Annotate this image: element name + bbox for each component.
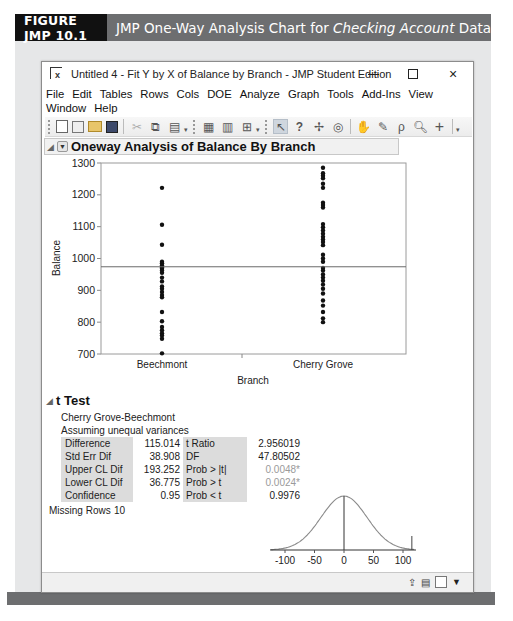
data-point <box>160 271 164 275</box>
ttest-prob-value: 47.80502 <box>247 450 303 463</box>
y-tick-label: 1100 <box>72 220 95 232</box>
ttest-outline-header[interactable]: ◢ t Test <box>44 392 399 409</box>
cut-icon[interactable]: ✂ <box>129 119 144 134</box>
lasso-icon[interactable]: ◎ <box>330 119 345 134</box>
menu-rows[interactable]: Rows <box>140 87 168 101</box>
figure-title-prefix: JMP One-Way Analysis Chart for <box>116 20 333 36</box>
density-tick-label: 100 <box>395 555 412 566</box>
new-data-table-icon[interactable] <box>56 120 68 133</box>
toolbar-grip[interactable] <box>193 120 196 134</box>
menu-doe[interactable]: DOE <box>207 87 231 101</box>
toolbar-overflow-icon[interactable]: ▾ <box>456 126 460 134</box>
arrow-icon[interactable]: ↖ <box>273 119 288 134</box>
toolbar-separator <box>123 119 124 134</box>
new-script-icon[interactable] <box>72 121 84 133</box>
menu-cols[interactable]: Cols <box>177 87 200 101</box>
y-axis-label: Balance <box>51 239 62 276</box>
maximize-button[interactable] <box>393 62 433 86</box>
brush-icon[interactable]: ✎ <box>375 119 390 134</box>
ttest-stat-value: 0.95 <box>133 489 183 502</box>
grabber-icon[interactable]: ✋ <box>356 119 371 134</box>
menu-file[interactable]: File <box>46 87 64 101</box>
data-point <box>321 243 325 247</box>
crosshair-icon[interactable]: + <box>432 119 447 134</box>
journal-icon[interactable]: ▦ <box>201 119 216 134</box>
data-point <box>321 176 325 180</box>
ttest-prob-label: DF <box>183 450 247 463</box>
menu-analyze[interactable]: Analyze <box>240 87 280 101</box>
ttest-row: Std Err Dif38.908DF47.80502 <box>61 450 303 463</box>
y-axis: 7008009001000110012001300 <box>72 157 101 360</box>
disclosure-icon[interactable]: ◢ <box>46 396 56 406</box>
help-icon[interactable]: ? <box>292 119 307 134</box>
ttest-stat-value: 193.252 <box>133 463 183 476</box>
data-point <box>321 259 325 263</box>
y-tick-label: 1000 <box>72 252 96 264</box>
maximize-icon <box>408 69 418 79</box>
ttest-row: Lower CL Dif36.775Prob > t0.0024* <box>61 476 303 489</box>
data-point <box>321 316 325 320</box>
lasso-select-icon[interactable]: ρ <box>394 119 409 134</box>
toolbar-grip[interactable] <box>48 120 51 134</box>
ttest-prob-label: Prob < t <box>183 489 247 502</box>
menu-view[interactable]: View <box>409 87 433 101</box>
ttest-stat-label: Std Err Dif <box>61 450 133 463</box>
figure-label: FIGURE JMP 10.1 <box>15 14 107 41</box>
copy-icon[interactable]: ⧉ <box>148 119 163 134</box>
menu-add-ins[interactable]: Add-Ins <box>362 87 401 101</box>
menu-window[interactable]: Window <box>46 101 86 115</box>
layout-icon[interactable]: ▥ <box>220 119 235 134</box>
data-point <box>160 310 164 314</box>
add-graph-icon[interactable]: ⊞ <box>239 119 254 134</box>
checkbox-icon[interactable] <box>435 576 447 588</box>
ttest-prob-label: Prob > |t| <box>183 463 247 476</box>
data-point <box>321 298 325 302</box>
figure-caption: FIGURE JMP 10.1 JMP One-Way Analysis Cha… <box>15 14 491 41</box>
y-tick-label: 700 <box>77 348 95 360</box>
ttest-title: t Test <box>56 393 90 408</box>
status-icons: ⇪ ▤ ▼ <box>408 576 461 588</box>
selection-icon[interactable]: ✢ <box>311 119 326 134</box>
menu-edit[interactable]: Edit <box>72 87 91 101</box>
menu-bar: FileEditTablesRowsColsDOEAnalyzeGraphToo… <box>46 87 466 115</box>
data-point <box>160 295 164 299</box>
x-axis: BeechmontCherry Grove <box>137 354 354 370</box>
dropdown-arrow-icon[interactable]: ▼ <box>452 577 461 587</box>
magnifier-icon[interactable]: 🔍︎ <box>413 119 428 134</box>
paste-icon[interactable]: ▤ <box>167 119 182 134</box>
toolbar-grip[interactable] <box>265 120 268 134</box>
title-bar[interactable]: x Untitled 4 - Fit Y by X of Balance by … <box>42 62 473 86</box>
y-tick-label: 900 <box>77 284 95 296</box>
open-icon[interactable] <box>88 121 102 132</box>
menu-tools[interactable]: Tools <box>327 87 353 101</box>
menu-help[interactable]: Help <box>94 101 117 115</box>
data-point <box>321 205 325 209</box>
minimize-button[interactable] <box>353 62 393 86</box>
data-point <box>321 166 325 170</box>
minimize-icon <box>368 74 379 75</box>
ttest-row: Upper CL Dif193.252Prob > |t|0.0048* <box>61 463 303 476</box>
figure-title-italic: Checking Account <box>333 20 454 36</box>
data-point <box>160 319 164 323</box>
data-point <box>160 243 164 247</box>
data-point <box>321 252 325 256</box>
save-icon[interactable] <box>106 121 118 133</box>
jmp-app-icon: x <box>50 67 66 81</box>
menu-tables[interactable]: Tables <box>100 87 133 101</box>
table-icon[interactable]: ▤ <box>421 577 430 588</box>
jmp-window: x Untitled 4 - Fit Y by X of Balance by … <box>41 61 474 593</box>
data-point <box>160 351 164 355</box>
ttest-prob-value: 0.9976 <box>247 489 303 502</box>
data-point <box>321 291 325 295</box>
toolbar-overflow-icon[interactable]: ▾ <box>184 126 188 134</box>
toolbar-overflow-icon[interactable]: ▾ <box>256 126 260 134</box>
missing-rows-value: 10 <box>114 505 125 516</box>
close-button[interactable]: × <box>433 62 473 86</box>
t-distribution-plot: -100-50050100 <box>270 496 416 566</box>
data-point <box>321 287 325 291</box>
toolbar-separator <box>452 119 453 134</box>
menu-graph[interactable]: Graph <box>288 87 319 101</box>
home-icon[interactable]: ⇪ <box>408 577 416 588</box>
density-tick-label: -50 <box>307 555 322 566</box>
density-tick-label: 50 <box>368 555 380 566</box>
